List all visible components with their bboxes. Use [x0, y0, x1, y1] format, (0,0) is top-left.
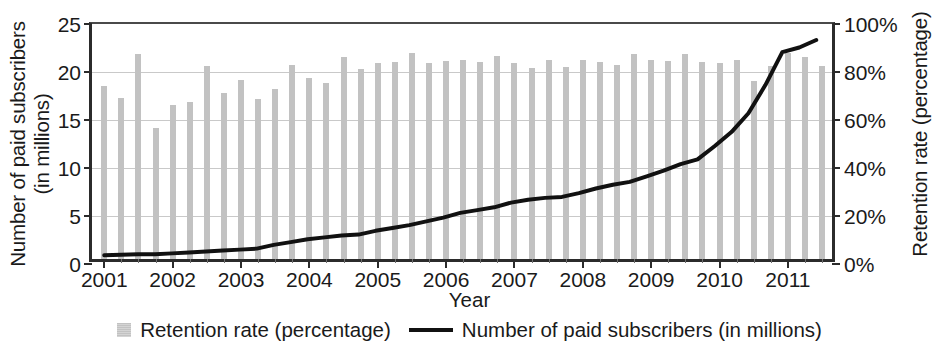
y-axis-right-tick-mark — [832, 23, 840, 25]
x-axis-minor-tick-mark — [668, 259, 669, 263]
x-axis-tick-label: 2007 — [491, 269, 538, 290]
x-axis-tick-mark — [308, 259, 310, 268]
x-axis-minor-tick-mark — [549, 259, 550, 263]
y-axis-right-tick-label: 100% — [832, 14, 902, 35]
y-axis-left-tick-mark — [84, 119, 92, 121]
x-axis-minor-tick-mark — [429, 259, 430, 263]
x-axis-minor-tick-mark — [754, 259, 755, 263]
x-axis-minor-tick-mark — [275, 259, 276, 263]
x-axis-minor-tick-mark — [480, 259, 481, 263]
x-axis-tick-label: 2001 — [81, 269, 128, 290]
x-axis-tick-mark — [172, 259, 174, 268]
x-axis-tick-label: 2005 — [354, 269, 401, 290]
x-axis-tick-label: 2003 — [218, 269, 265, 290]
y-axis-right-tick-mark — [832, 119, 840, 121]
x-axis-minor-tick-mark — [463, 259, 464, 263]
y-axis-right-tick-label: 60% — [832, 110, 902, 131]
x-axis-tick-mark — [582, 259, 584, 268]
line-swatch-icon — [409, 328, 453, 332]
y-axis-left-tick-mark — [84, 23, 92, 25]
x-axis-minor-tick-mark — [532, 259, 533, 263]
x-axis-minor-tick-mark — [190, 259, 191, 263]
plot-area: 0510152025 0%20%40%60%80%100% 2001200220… — [89, 22, 835, 262]
x-axis-minor-tick-mark — [702, 259, 703, 263]
x-axis-tick-label: 2010 — [696, 269, 743, 290]
y-axis-right-tick-mark — [832, 263, 840, 265]
x-axis-minor-tick-mark — [395, 259, 396, 263]
x-axis-minor-tick-mark — [207, 259, 208, 263]
x-axis-minor-tick-mark — [634, 259, 635, 263]
x-axis-title: Year — [0, 288, 939, 312]
legend-label-paid-subscribers: Number of paid subscribers (in millions) — [462, 318, 822, 342]
x-axis-minor-tick-mark — [617, 259, 618, 263]
y-axis-right-tick-mark — [832, 167, 840, 169]
x-axis-minor-tick-mark — [258, 259, 259, 263]
x-axis-tick-mark — [103, 259, 105, 268]
x-axis-minor-tick-mark — [566, 259, 567, 263]
x-axis-tick-label: 2009 — [628, 269, 675, 290]
x-axis-minor-tick-mark — [326, 259, 327, 263]
x-axis-tick-mark — [650, 259, 652, 268]
x-axis-minor-tick-mark — [156, 259, 157, 263]
line-series — [92, 24, 832, 259]
x-axis-tick-mark — [445, 259, 447, 268]
x-axis-minor-tick-mark — [805, 259, 806, 263]
x-axis-tick-label: 2011 — [765, 269, 810, 290]
y-axis-right-title: Retention rate (percentage) — [908, 0, 932, 268]
x-axis-minor-tick-mark — [737, 259, 738, 263]
legend-label-retention-rate: Retention rate (percentage) — [140, 318, 391, 342]
y-axis-left-tick-mark — [84, 215, 92, 217]
y-axis-right-tick-mark — [832, 71, 840, 73]
y-axis-right-tick-mark — [832, 215, 840, 217]
x-axis-tick-mark — [513, 259, 515, 268]
x-axis-minor-tick-mark — [361, 259, 362, 263]
y-axis-right-tick-label: 80% — [832, 62, 902, 83]
chart-legend: Retention rate (percentage) Number of pa… — [0, 318, 939, 342]
chart-figure: Number of paid subscribers (in millions)… — [0, 0, 939, 348]
y-axis-left-tick-mark — [84, 167, 92, 169]
x-axis-minor-tick-mark — [685, 259, 686, 263]
plot-inner — [92, 24, 832, 259]
bar-swatch-icon — [117, 323, 131, 337]
x-axis-minor-tick-mark — [138, 259, 139, 263]
x-axis-minor-tick-mark — [224, 259, 225, 263]
y-axis-left-tick-mark — [84, 71, 92, 73]
x-axis-minor-tick-mark — [344, 259, 345, 263]
y-axis-right-tick-label: 0% — [832, 254, 902, 275]
x-axis-tick-mark — [719, 259, 721, 268]
subscribers-line — [104, 40, 816, 255]
x-axis-tick-label: 2004 — [286, 269, 333, 290]
x-axis-tick-mark — [377, 259, 379, 268]
x-axis-tick-label: 2002 — [149, 269, 196, 290]
y-axis-left-title: Number of paid subscribers (in millions) — [6, 10, 54, 278]
x-axis-minor-tick-mark — [121, 259, 122, 263]
x-axis-tick-mark — [240, 259, 242, 268]
x-axis-tick-label: 2006 — [423, 269, 470, 290]
x-axis-minor-tick-mark — [771, 259, 772, 263]
x-axis-minor-tick-mark — [292, 259, 293, 263]
y-axis-right-tick-label: 40% — [832, 158, 902, 179]
y-axis-right-tick-label: 20% — [832, 206, 902, 227]
x-axis-minor-tick-mark — [600, 259, 601, 263]
x-axis-minor-tick-mark — [412, 259, 413, 263]
x-axis-minor-tick-mark — [497, 259, 498, 263]
x-axis-tick-label: 2008 — [559, 269, 606, 290]
x-axis-minor-tick-mark — [822, 259, 823, 263]
x-axis-tick-mark — [787, 259, 789, 268]
legend-item-retention-rate: Retention rate (percentage) — [117, 318, 391, 342]
y-axis-left-tick-mark — [84, 263, 92, 265]
legend-item-paid-subscribers: Number of paid subscribers (in millions) — [409, 318, 822, 342]
